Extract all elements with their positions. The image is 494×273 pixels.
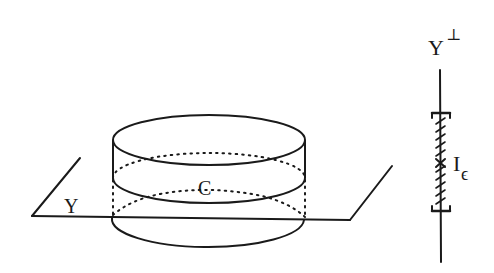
axis-label: Y	[428, 35, 444, 60]
interval-subscript: ϵ	[461, 164, 468, 184]
interval-label: I	[453, 151, 460, 176]
axis-superscript: ⊥	[446, 26, 461, 43]
plane-label: Y	[64, 195, 78, 217]
axis-y-perp	[440, 70, 441, 262]
cylinder-label: C	[198, 177, 211, 199]
plane-y	[32, 158, 392, 220]
diagram-canvas: Y C Y ⊥ I ϵ	[0, 0, 494, 273]
